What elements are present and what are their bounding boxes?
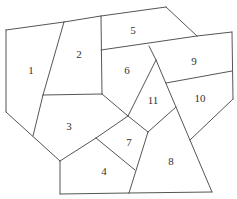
- border-line: [64, 16, 101, 22]
- border-line: [6, 112, 60, 161]
- border-line: [166, 71, 232, 83]
- region-label-5: 5: [130, 24, 136, 36]
- border-line: [128, 60, 156, 116]
- border-line: [129, 132, 148, 193]
- border-line: [232, 32, 233, 99]
- border-line: [101, 36, 197, 50]
- border-line: [96, 116, 128, 138]
- region-label-8: 8: [168, 155, 174, 167]
- region-label-2: 2: [76, 48, 82, 60]
- border-line: [129, 192, 212, 193]
- region-label-9: 9: [191, 55, 197, 67]
- region-label-6: 6: [124, 64, 130, 76]
- region-label-7: 7: [126, 136, 132, 148]
- border-line: [148, 107, 176, 132]
- border-line: [190, 99, 233, 140]
- border-line: [60, 138, 96, 161]
- region-label-4: 4: [101, 165, 107, 177]
- border-line: [33, 95, 43, 136]
- border-line: [101, 7, 166, 16]
- region-label-11: 11: [148, 94, 159, 106]
- border-line: [43, 94, 102, 95]
- region-label-10: 10: [195, 92, 207, 104]
- border-line: [101, 16, 102, 94]
- region-label-3: 3: [66, 120, 72, 132]
- region-label-1: 1: [28, 64, 34, 76]
- region-map: 1 2 3 4 5 6 7 8 9 10 11: [0, 0, 237, 199]
- border-line: [60, 193, 129, 194]
- border-line: [6, 22, 64, 30]
- border-line: [43, 22, 64, 95]
- map-diagram: 1 2 3 4 5 6 7 8 9 10 11: [0, 0, 237, 199]
- border-line: [197, 32, 232, 36]
- border-line: [128, 116, 148, 132]
- border-line: [102, 94, 128, 116]
- border-line: [149, 46, 156, 60]
- region-labels: 1 2 3 4 5 6 7 8 9 10 11: [28, 24, 206, 177]
- border-line: [166, 7, 197, 36]
